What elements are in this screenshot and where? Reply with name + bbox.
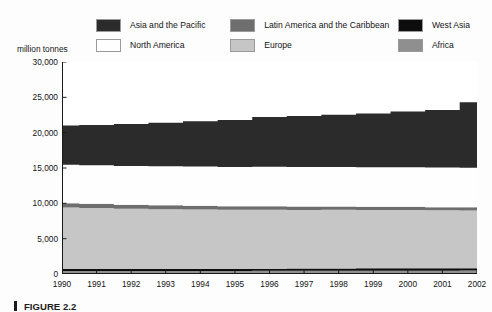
y-tick-label-5000: 5,000: [37, 234, 58, 244]
x-tick-label-2002: 2002: [468, 279, 486, 289]
x-tick-label-2000: 2000: [399, 279, 417, 289]
y-tick-label-10000: 10,000: [33, 198, 58, 208]
legend-item-north-america: North America: [96, 38, 230, 53]
legend-swatch-north-america: [96, 39, 121, 52]
stacked-area-chart: [62, 62, 477, 274]
x-tick-label-1997: 1997: [295, 279, 313, 289]
x-tick-label-1990: 1990: [53, 279, 71, 289]
y-tick-label-25000: 25,000: [33, 92, 58, 102]
x-tick-label-1993: 1993: [157, 279, 175, 289]
area-series-europe: [62, 208, 477, 269]
legend-swatch-west-asia: [398, 19, 423, 32]
figure-container: Asia and the Pacific Latin America and t…: [0, 0, 492, 312]
legend-item-asia-pacific: Asia and the Pacific: [96, 18, 230, 33]
legend-row-bottom: North America Europe Africa: [96, 38, 484, 53]
y-axis-tick-labels: 05,00010,00015,00020,00025,00030,000: [14, 62, 58, 274]
y-axis-title: million tonnes: [17, 44, 68, 54]
legend-swatch-latin-america: [230, 19, 255, 32]
x-tick-label-1995: 1995: [226, 279, 244, 289]
legend-swatch-europe: [230, 39, 255, 52]
legend-item-west-asia: West Asia: [398, 18, 484, 33]
figure-caption: FIGURE 2.2: [14, 300, 76, 312]
y-tick-label-15000: 15,000: [33, 163, 58, 173]
legend-item-europe: Europe: [230, 38, 398, 53]
x-tick-label-1998: 1998: [329, 279, 347, 289]
x-tick-label-1994: 1994: [191, 279, 209, 289]
y-tick-label-30000: 30,000: [33, 57, 58, 67]
legend-label-africa: Africa: [432, 39, 454, 52]
legend-label-europe: Europe: [264, 39, 292, 52]
chart-plot-area: [62, 62, 477, 274]
caption-text: FIGURE 2.2: [24, 301, 76, 312]
legend-row-top: Asia and the Pacific Latin America and t…: [96, 18, 484, 33]
chart-legend: Asia and the Pacific Latin America and t…: [96, 18, 484, 56]
legend-label-latin-america: Latin America and the Caribbean: [264, 19, 389, 32]
legend-item-latin-america: Latin America and the Caribbean: [230, 18, 398, 33]
x-tick-label-1991: 1991: [87, 279, 105, 289]
legend-label-asia-pacific: Asia and the Pacific: [130, 19, 205, 32]
x-tick-label-1996: 1996: [260, 279, 278, 289]
y-tick-label-0: 0: [53, 269, 58, 279]
x-tick-label-2001: 2001: [433, 279, 451, 289]
y-tick-label-20000: 20,000: [33, 128, 58, 138]
x-tick-label-1992: 1992: [122, 279, 140, 289]
caption-accent-bar: [14, 301, 17, 311]
legend-swatch-asia-pacific: [96, 19, 121, 32]
x-axis-tick-labels: 1990199119921993199419951996199719981999…: [62, 276, 482, 290]
x-tick-label-1999: 1999: [364, 279, 382, 289]
legend-label-north-america: North America: [130, 39, 184, 52]
legend-swatch-africa: [398, 39, 423, 52]
area-series-north-america: [62, 165, 477, 208]
legend-item-africa: Africa: [398, 38, 484, 53]
legend-label-west-asia: West Asia: [432, 19, 470, 32]
